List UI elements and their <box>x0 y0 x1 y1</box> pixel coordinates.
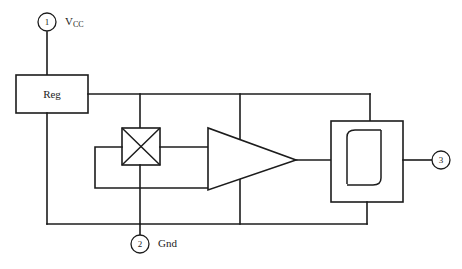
pin-2-label: Gnd <box>158 237 177 249</box>
pin-2-number: 2 <box>138 239 143 249</box>
pin-1-label: VCC <box>65 15 84 29</box>
block-diagram-container: Reg <box>0 0 462 269</box>
pin-3-number: 3 <box>439 155 444 165</box>
amplifier-block <box>208 128 296 190</box>
voltage-regulator-label: Reg <box>43 88 61 100</box>
pin-1-number: 1 <box>45 17 50 27</box>
schematic-svg: Reg <box>0 0 462 269</box>
schmitt-trigger-block <box>331 121 403 202</box>
